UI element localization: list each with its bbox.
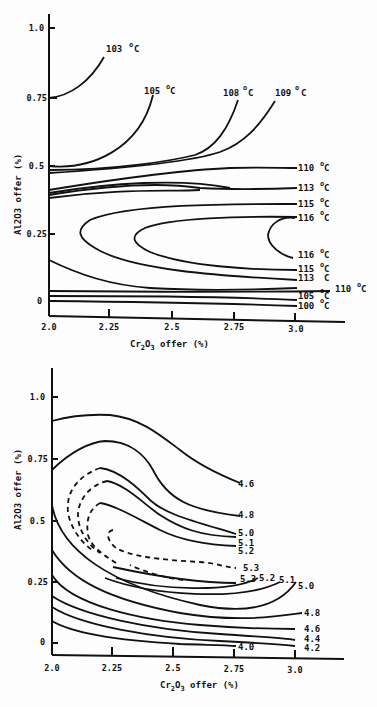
bottom-contour-chart: 1.0 0.75 0.5 0.25 0 2.0 2.25 2.5 2.75 3.… xyxy=(13,368,344,693)
y-tick-label: 1.0 xyxy=(29,23,44,33)
svg-text:105: 105 xyxy=(144,86,160,96)
svg-text:5.2: 5.2 xyxy=(238,546,254,556)
svg-text:116: 116 xyxy=(298,250,314,260)
bottom-contour-labels: 4.6 4.8 5.0 5.1 5.2 5.3 5.3 5.2 5.1 5.0 … xyxy=(238,479,321,653)
x-tick-label: 3.0 xyxy=(287,665,302,675)
svg-text:5.3: 5.3 xyxy=(243,563,259,573)
y-tick-label: 1.0 xyxy=(30,392,45,402)
svg-text:o: o xyxy=(243,84,247,92)
svg-text:C: C xyxy=(248,88,253,98)
svg-text:115: 115 xyxy=(298,199,314,209)
svg-text:C: C xyxy=(134,44,139,54)
x-tick-label: 2.25 xyxy=(102,663,122,673)
svg-text:C: C xyxy=(324,213,329,223)
x-tick-label: 2.5 xyxy=(165,663,180,673)
svg-text:C: C xyxy=(324,273,329,283)
svg-text:C: C xyxy=(324,250,329,260)
svg-text:4.6: 4.6 xyxy=(304,624,320,634)
svg-text:105: 105 xyxy=(298,291,314,301)
x-tick-label: 2.0 xyxy=(44,663,59,673)
y-tick-label: 0.25 xyxy=(27,229,47,239)
svg-text:C: C xyxy=(170,86,175,96)
bottom-y-axis-title: Al2O3 offer (%) xyxy=(13,449,23,530)
svg-text:109: 109 xyxy=(275,88,291,98)
svg-text:5.1: 5.1 xyxy=(279,575,295,585)
svg-text:4.8: 4.8 xyxy=(304,608,320,618)
y-tick-label: 0 xyxy=(37,296,42,306)
svg-text:C: C xyxy=(324,301,329,311)
x-tick-label: 2.25 xyxy=(99,322,119,332)
svg-text:113: 113 xyxy=(298,273,314,283)
svg-text:116: 116 xyxy=(298,213,314,223)
svg-text:113: 113 xyxy=(298,183,314,193)
top-x-axis-title: Cr2O3 offer (%) xyxy=(130,339,209,352)
svg-text:o: o xyxy=(295,84,299,92)
svg-text:C: C xyxy=(324,291,329,301)
x-tick-label: 2.0 xyxy=(41,322,56,332)
top-contour-chart: 1.0 0.75 0.5 0.25 0 2.0 2.25 2.5 2.75 3.… xyxy=(13,14,366,352)
y-tick-label: 0.75 xyxy=(27,93,47,103)
svg-text:103: 103 xyxy=(106,44,122,54)
svg-text:o: o xyxy=(129,41,133,49)
x-tick-label: 2.5 xyxy=(164,322,179,332)
y-tick-label: 0.5 xyxy=(29,161,44,171)
svg-text:C: C xyxy=(301,88,306,98)
svg-text:110: 110 xyxy=(335,284,351,294)
svg-text:5.0: 5.0 xyxy=(298,581,314,591)
svg-text:C: C xyxy=(324,163,329,173)
svg-text:5.2: 5.2 xyxy=(259,573,275,583)
svg-text:C: C xyxy=(324,199,329,209)
svg-text:110: 110 xyxy=(298,163,314,173)
svg-text:4.6: 4.6 xyxy=(238,479,254,489)
svg-text:5.3: 5.3 xyxy=(240,574,256,584)
x-tick-label: 2.75 xyxy=(224,664,244,674)
svg-text:C: C xyxy=(361,284,366,294)
svg-text:C: C xyxy=(324,183,329,193)
y-tick-label: 0.75 xyxy=(28,454,48,464)
bottom-x-axis-title: Cr2O3 offer (%) xyxy=(160,680,239,693)
svg-text:5.0: 5.0 xyxy=(238,528,254,538)
svg-text:4.0: 4.0 xyxy=(238,642,254,652)
x-tick-label: 3.0 xyxy=(288,324,303,334)
svg-text:108: 108 xyxy=(223,88,239,98)
contour-figure: 1.0 0.75 0.5 0.25 0 2.0 2.25 2.5 2.75 3.… xyxy=(0,0,377,707)
top-y-axis-title: Al2O3 offer (%) xyxy=(13,154,23,235)
y-tick-label: 0.5 xyxy=(30,516,45,526)
svg-text:4.2: 4.2 xyxy=(304,643,320,653)
y-tick-label: 0 xyxy=(40,637,45,647)
x-tick-label: 2.75 xyxy=(224,322,244,332)
bottom-x-axis xyxy=(52,655,344,659)
y-tick-label: 0.25 xyxy=(28,577,48,587)
svg-text:4.8: 4.8 xyxy=(238,510,254,520)
svg-text:100: 100 xyxy=(298,301,314,311)
top-x-axis xyxy=(49,316,345,322)
